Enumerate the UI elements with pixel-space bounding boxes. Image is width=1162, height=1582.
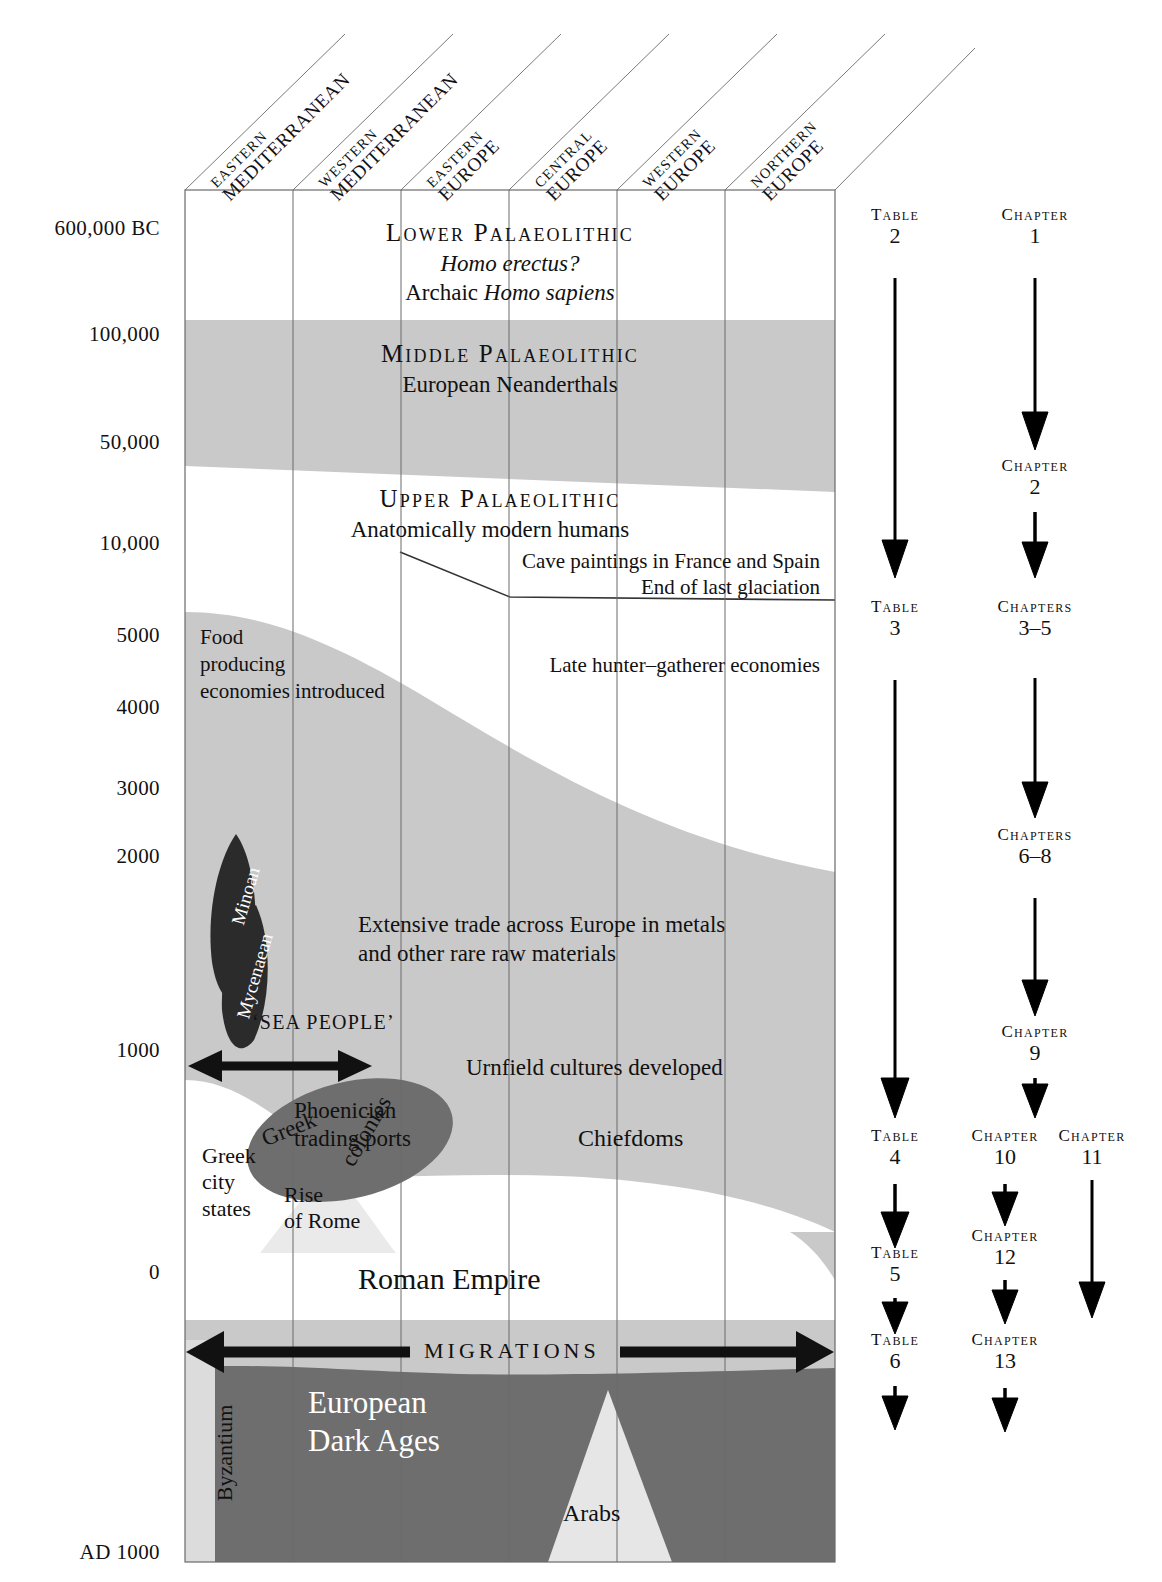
dark-ages-line1: European	[308, 1385, 427, 1420]
axis-label-600000bc: 600,000 BC	[10, 216, 160, 241]
dark-ages-region	[185, 1366, 835, 1562]
ref-chapter-9: Chapter 9	[960, 1022, 1110, 1066]
homo-erectus-label: Homo erectus?	[310, 251, 710, 277]
chapter-arrow-68-9	[1022, 898, 1048, 1016]
axis-label-zero: 0	[10, 1260, 160, 1285]
end-glaciation-label: End of last glaciation	[641, 574, 820, 601]
era-lower-palaeolithic: Lower Palaeolithic	[310, 219, 710, 247]
ref-table-2: Table 2	[820, 205, 970, 249]
european-neanderthals-label: European Neanderthals	[300, 372, 720, 398]
rise-rome-line2: of Rome	[284, 1208, 360, 1233]
ref-chapter-1: Chapter 1	[960, 205, 1110, 249]
table-arrow-6-end	[882, 1386, 908, 1430]
trade-line1: Extensive trade across Europe in metals	[358, 912, 725, 937]
rise-rome-line1: Rise	[284, 1182, 323, 1207]
ref-chapters-6-8: Chapters 6–8	[960, 825, 1110, 869]
chapter-arrow-11-end	[1079, 1180, 1105, 1318]
migrations-label: MIGRATIONS	[424, 1337, 600, 1365]
arabs-label: Arabs	[563, 1498, 620, 1529]
chapter-arrow-10-12	[992, 1184, 1018, 1226]
table-arrow-5-6	[882, 1298, 908, 1334]
ref-table-3: Table 3	[820, 597, 970, 641]
byzantium-strip	[185, 1340, 215, 1562]
axis-label-4000: 4000	[10, 695, 160, 720]
modern-humans-label: Anatomically modern humans	[290, 517, 690, 543]
byzantium-label: Byzantium	[212, 1373, 238, 1533]
ref-chapter-2: Chapter 2	[960, 456, 1110, 500]
era-upper-palaeolithic: Upper Palaeolithic	[300, 485, 700, 513]
food-line1: Food	[200, 625, 243, 649]
greek-city-states-label: Greek city states	[202, 1143, 256, 1222]
axis-label-5000: 5000	[10, 623, 160, 648]
chapter-arrow-13-end	[992, 1388, 1018, 1432]
sea-people-label: ‘SEA PEOPLE’	[252, 1010, 395, 1036]
table-arrow-4-5	[881, 1184, 909, 1248]
ref-chapter-12: Chapter 12	[930, 1226, 1080, 1270]
chapter-arrow-35-68	[1022, 678, 1048, 818]
late-hunter-gatherer-label: Late hunter–gatherer economies	[549, 652, 820, 679]
axis-label-ad1000: AD 1000	[10, 1540, 160, 1565]
table-arrow-3-4	[881, 680, 909, 1118]
archaic-homo-sapiens-label: Archaic Homo sapiens	[310, 280, 710, 306]
trade-line2: and other rare raw materials	[358, 941, 616, 966]
ref-chapters-3-5: Chapters 3–5	[960, 597, 1110, 641]
archaic-italic-part: Homo sapiens	[484, 280, 615, 305]
ref-chapter-13: Chapter 13	[930, 1330, 1080, 1374]
greek-city-line3: states	[202, 1196, 251, 1221]
era-middle-palaeolithic: Middle Palaeolithic	[300, 340, 720, 368]
ref-chapter-11: Chapter 11	[1017, 1126, 1162, 1170]
axis-label-50000: 50,000	[10, 430, 160, 455]
chronology-chart: 600,000 BC 100,000 50,000 10,000 5000 40…	[0, 0, 1162, 1582]
greek-city-line2: city	[202, 1169, 235, 1194]
axis-label-10000: 10,000	[10, 531, 160, 556]
axis-label-3000: 3000	[10, 776, 160, 801]
axis-label-1000bc: 1000	[10, 1038, 160, 1063]
cave-paintings-label: Cave paintings in France and Spain	[522, 548, 820, 575]
food-line3: economies introduced	[200, 679, 385, 703]
urnfield-label: Urnfield cultures developed	[466, 1053, 723, 1082]
axis-label-100000: 100,000	[10, 322, 160, 347]
chapter-arrow-9-10	[1022, 1078, 1048, 1118]
greek-city-line1: Greek	[202, 1143, 256, 1168]
european-dark-ages-label: European Dark Ages	[308, 1384, 440, 1460]
axis-label-2000: 2000	[10, 844, 160, 869]
rise-of-rome-label: Rise of Rome	[284, 1182, 360, 1235]
chapter-arrow-12-13	[992, 1280, 1018, 1324]
extensive-trade-label: Extensive trade across Europe in metals …	[358, 910, 725, 969]
dark-ages-line2: Dark Ages	[308, 1423, 440, 1458]
roman-empire-label: Roman Empire	[358, 1260, 540, 1298]
food-line2: producing	[200, 652, 285, 676]
food-producing-label: Food producing economies introduced	[200, 624, 385, 705]
chapter-arrow-1-2	[1022, 278, 1048, 450]
chapter-arrow-2-35	[1022, 512, 1048, 578]
chiefdoms-label: Chiefdoms	[578, 1123, 683, 1154]
table-arrow-2-3	[882, 278, 908, 578]
